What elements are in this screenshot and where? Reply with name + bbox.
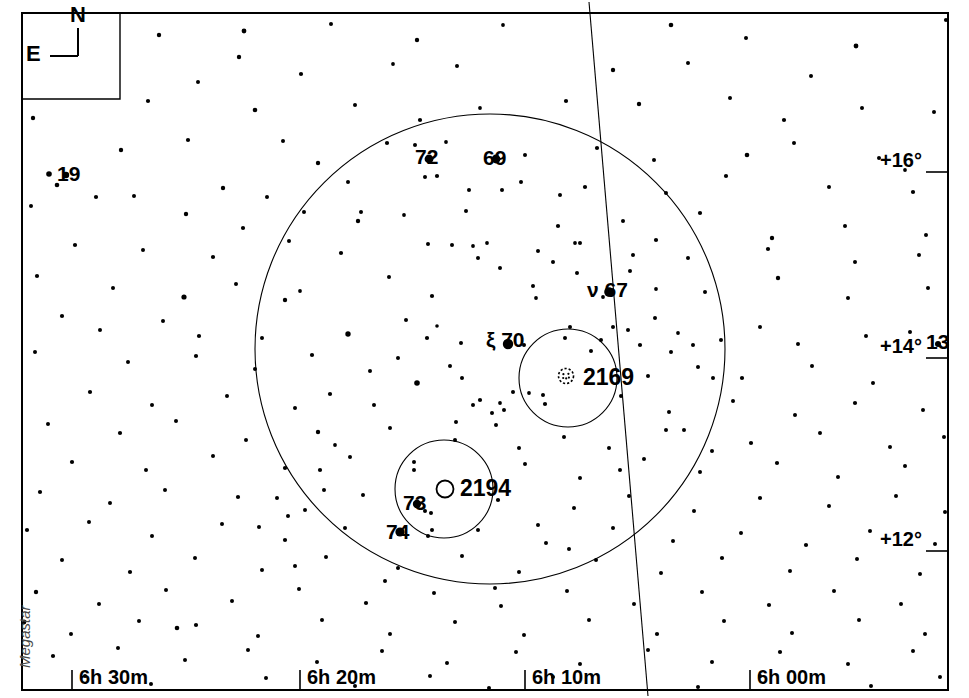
star-point	[652, 158, 656, 162]
star-point	[426, 242, 430, 246]
star-point	[432, 591, 436, 595]
star-point	[487, 686, 491, 690]
star-point	[575, 271, 579, 275]
star-point	[264, 676, 268, 680]
star-point	[316, 161, 320, 165]
star-point	[383, 579, 387, 583]
star-point	[175, 626, 180, 631]
star-point	[141, 248, 145, 252]
star-point	[150, 403, 154, 407]
star-point	[460, 554, 464, 558]
star-point	[453, 620, 457, 624]
star-point	[256, 634, 260, 638]
star-point	[46, 422, 50, 426]
star-point	[193, 556, 197, 560]
star-point	[502, 408, 506, 412]
star-point	[299, 72, 303, 76]
star-point	[388, 426, 392, 430]
star-point	[324, 555, 328, 559]
star-point	[499, 604, 503, 608]
axis-ticks	[72, 172, 948, 690]
star-label-74: 74	[386, 521, 409, 542]
star-point	[144, 468, 148, 472]
star-point	[346, 180, 350, 184]
star-point	[108, 501, 112, 505]
star-point	[385, 141, 389, 145]
star-point	[943, 510, 947, 514]
star-point	[578, 241, 582, 245]
star-point	[455, 64, 459, 68]
star-point	[320, 618, 324, 622]
star-point	[917, 253, 921, 257]
star-point	[414, 380, 420, 386]
star-point	[423, 175, 427, 179]
star-point	[111, 286, 115, 290]
dso-symbol-speck-0-1	[567, 373, 569, 375]
star-point	[329, 22, 333, 26]
star-point	[260, 336, 264, 340]
star-point	[242, 29, 247, 34]
star-point	[749, 441, 753, 445]
star-point	[517, 446, 521, 450]
star-point	[899, 602, 903, 606]
star-point	[942, 435, 946, 439]
dec-tick-label-0: +16°	[880, 150, 922, 170]
star-point	[667, 410, 671, 414]
star-point	[69, 632, 73, 636]
star-point	[627, 494, 631, 498]
star-point	[578, 476, 582, 480]
star-point	[126, 360, 130, 364]
star-label-69: 69	[483, 147, 506, 168]
star-point	[444, 140, 448, 144]
star-point	[194, 623, 198, 627]
star-point	[94, 195, 98, 199]
star-point	[197, 334, 201, 338]
compass-east-label: E	[26, 43, 41, 65]
star-point	[450, 243, 454, 247]
star-point	[796, 342, 800, 346]
star-point	[426, 534, 430, 538]
star-point	[368, 369, 372, 373]
star-point	[567, 547, 571, 551]
star-point	[454, 420, 458, 424]
star-point	[315, 660, 319, 664]
star-point	[73, 243, 77, 247]
star-point	[387, 275, 391, 279]
star-point	[464, 209, 468, 213]
star-point	[744, 36, 748, 40]
star-point	[626, 328, 630, 332]
star-point	[583, 185, 587, 189]
star-point	[396, 356, 400, 360]
star-point	[310, 353, 314, 357]
star-point	[186, 138, 190, 142]
dso-field-circles	[395, 329, 617, 538]
star-point	[293, 564, 297, 568]
star-point	[536, 249, 540, 253]
star-point	[281, 139, 285, 143]
star-point	[860, 106, 864, 110]
star-point	[857, 618, 861, 622]
star-point	[853, 260, 857, 264]
star-point	[562, 435, 566, 439]
star-point	[933, 542, 937, 546]
star-point	[621, 219, 625, 223]
star-point	[514, 650, 518, 654]
star-point	[150, 534, 154, 538]
star-point	[724, 174, 728, 178]
star-point	[220, 522, 224, 526]
star-point	[563, 336, 567, 340]
star-point	[97, 602, 101, 606]
star-point	[843, 224, 847, 228]
star-point	[589, 349, 593, 353]
star-point	[34, 590, 38, 594]
star-point	[938, 675, 942, 679]
star-point	[356, 219, 360, 223]
star-point	[519, 180, 523, 184]
star-point	[460, 376, 464, 380]
star-point	[380, 649, 384, 653]
star-point	[654, 238, 658, 242]
star-point	[722, 619, 726, 623]
star-point	[646, 648, 650, 652]
star-point	[637, 102, 641, 106]
star-point	[572, 506, 576, 510]
